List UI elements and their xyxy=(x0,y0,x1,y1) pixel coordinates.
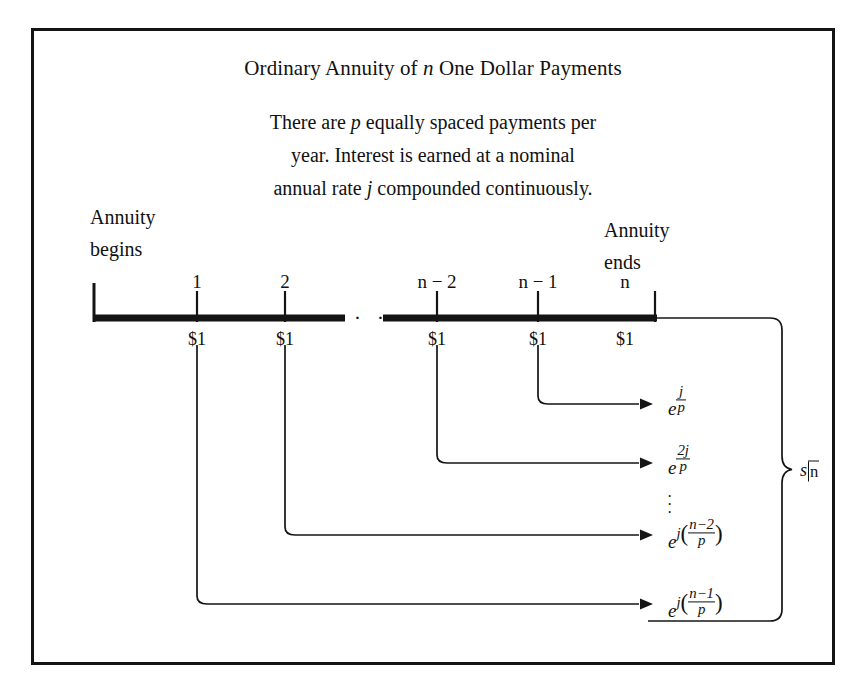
expr-3-paren-close: ) xyxy=(715,527,723,541)
subtitle-line-3: annual rate j compounded continuously. xyxy=(0,178,866,198)
subtitle-line-2: year. Interest is earned at a nominal xyxy=(0,145,866,165)
expr-4-denominator: p xyxy=(688,603,715,618)
subtitle-3-b: compounded continuously. xyxy=(372,177,592,199)
tick-label-2: 2 xyxy=(280,272,290,291)
expr-4-fraction: n−1p xyxy=(688,587,715,618)
title-before: Ordinary Annuity of xyxy=(244,56,423,80)
payment-label-2: $1 xyxy=(276,330,294,348)
expr-1-numerator: j xyxy=(676,385,685,401)
accumulation-expression-4: ej(n−1p) xyxy=(668,590,723,621)
tick-label-n-minus-2: n − 2 xyxy=(417,272,456,291)
payment-label-3: $1 xyxy=(428,330,446,348)
tick-label-n-minus-1: n − 1 xyxy=(518,272,557,291)
expr-3-exponent: j(n−2p) xyxy=(676,519,722,550)
annuity-ends-line1: Annuity xyxy=(604,220,670,240)
expr-2-numerator: 2j xyxy=(676,444,690,460)
tick-label-n: n xyxy=(620,272,630,291)
expr-1-base: e xyxy=(668,398,676,419)
title-after: One Dollar Payments xyxy=(434,56,622,80)
annuity-timeline-figure: Ordinary Annuity of n One Dollar Payment… xyxy=(0,0,866,683)
vdot-3: · xyxy=(667,509,672,517)
accumulation-expression-3: ej(n−2p) xyxy=(668,521,723,552)
expr-3-numerator: n−2 xyxy=(688,518,715,534)
annuity-ends-line2: ends xyxy=(604,252,641,272)
annuity-begins-line1: Annuity xyxy=(90,207,156,227)
angle-n-notation: n xyxy=(808,460,819,481)
subtitle-1-italic: p xyxy=(351,111,361,133)
expr-2-exponent: 2jp xyxy=(676,445,690,476)
payment-label-1: $1 xyxy=(188,330,206,348)
timeline-break-dots: · · · xyxy=(331,305,389,331)
subtitle-1-b: equally spaced payments per xyxy=(361,111,596,133)
annuity-value-symbol: sn xyxy=(800,460,819,481)
accumulation-expression-1: ejp xyxy=(668,388,686,419)
expr-4-paren-close: ) xyxy=(715,596,723,610)
expr-3-paren-open: ( xyxy=(681,527,689,541)
annuity-begins-line2: begins xyxy=(90,239,142,259)
expr-2-base: e xyxy=(668,457,676,478)
expr-4-numerator: n−1 xyxy=(688,587,715,603)
expr-2-fraction: 2jp xyxy=(676,444,690,475)
title-italic-n: n xyxy=(423,56,434,80)
payment-label-4: $1 xyxy=(529,330,547,348)
subtitle-line-1: There are p equally spaced payments per xyxy=(0,112,866,132)
expr-1-exponent: jp xyxy=(676,386,685,417)
expr-4-exponent: j(n−1p) xyxy=(676,588,722,619)
expr-1-denominator: p xyxy=(676,401,685,416)
annuity-symbol-s: s xyxy=(800,460,807,480)
subtitle-1-a: There are xyxy=(270,111,351,133)
figure-title: Ordinary Annuity of n One Dollar Payment… xyxy=(0,58,866,79)
subtitle-3-a: annual rate xyxy=(273,177,366,199)
expr-1-fraction: jp xyxy=(676,385,685,416)
subtitle-2-a: year. Interest is earned at a nominal xyxy=(291,144,575,166)
expr-3-fraction: n−2p xyxy=(688,518,715,549)
tick-label-1: 1 xyxy=(192,272,202,291)
expr-4-paren-open: ( xyxy=(681,596,689,610)
accumulation-expression-2: e2jp xyxy=(668,447,690,478)
vertical-ellipsis: · · · xyxy=(667,493,672,517)
expr-3-denominator: p xyxy=(688,534,715,549)
expr-2-denominator: p xyxy=(676,460,690,475)
payment-label-5: $1 xyxy=(616,330,634,348)
